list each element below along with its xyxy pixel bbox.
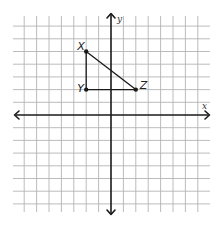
vertex-z-point	[134, 87, 138, 91]
vertex-z-label: Z	[139, 79, 148, 92]
vertex-x-label: X	[76, 40, 85, 53]
graph-canvas: y x X Y Z	[0, 0, 222, 232]
coordinate-plane: y x X Y Z	[0, 0, 222, 232]
vertex-y-point	[84, 87, 88, 91]
vertex-y-label: Y	[77, 82, 85, 95]
y-axis-label: y	[116, 14, 123, 24]
x-axis-label: x	[202, 101, 207, 111]
triangle-xyz: X Y Z	[76, 40, 148, 95]
